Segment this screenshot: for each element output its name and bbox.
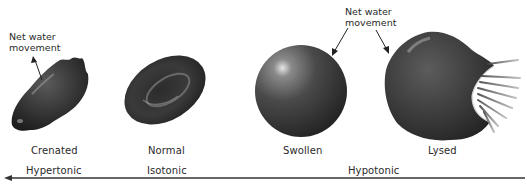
annotation-right-line2: movement	[345, 17, 396, 28]
axis-label-isotonic: Isotonic	[147, 165, 187, 176]
annotation-arrow-left	[31, 56, 42, 80]
label-swollen: Swollen	[283, 145, 322, 156]
swollen-cell	[255, 45, 347, 137]
label-crenated: Crenated	[31, 145, 78, 156]
annotation-arrow-lysed	[376, 30, 389, 54]
annotation-left-line2: movement	[9, 42, 60, 53]
annotation-arrow-swollen	[332, 28, 348, 56]
tonicity-diagram: Net water movement Net water movement Cr…	[0, 0, 527, 187]
diagram-graphics	[0, 0, 527, 187]
annotation-right: Net water movement	[345, 6, 396, 28]
tonicity-axis-arrow	[4, 175, 525, 181]
label-lysed: Lysed	[428, 145, 457, 156]
annotation-right-line1: Net water	[345, 6, 396, 17]
label-normal: Normal	[148, 145, 185, 156]
lysed-cell	[385, 32, 522, 141]
axis-label-hypotonic: Hypotonic	[348, 165, 399, 176]
crenated-cell	[12, 57, 89, 130]
annotation-left-line1: Net water	[9, 31, 60, 42]
annotation-left: Net water movement	[9, 31, 60, 53]
normal-cell	[112, 41, 218, 139]
axis-label-hypertonic: Hypertonic	[26, 165, 82, 176]
